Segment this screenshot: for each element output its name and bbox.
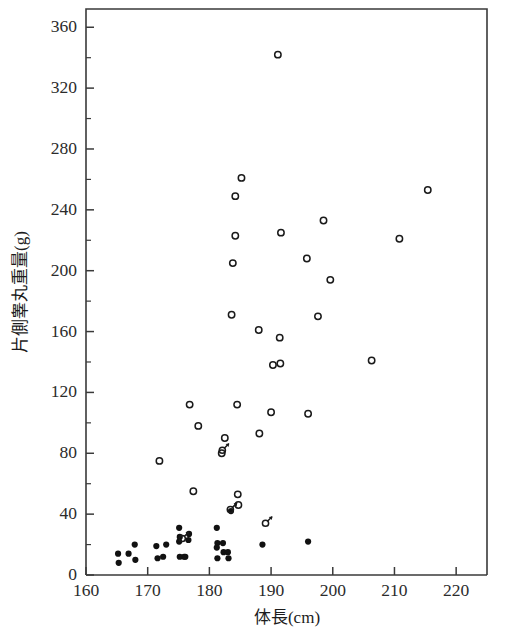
data-point-open — [304, 255, 310, 261]
axis-ticks — [86, 27, 456, 575]
data-point-open — [232, 193, 238, 199]
y-tick-label: 40 — [60, 503, 78, 523]
y-tick-label: 200 — [51, 260, 78, 280]
data-point-open — [232, 233, 238, 239]
x-tick-label: 180 — [196, 580, 223, 600]
y-tick-label: 280 — [51, 138, 78, 158]
data-point-open — [305, 411, 311, 417]
data-point-open — [270, 362, 276, 368]
data-point-open — [228, 312, 234, 318]
y-tick-label: 160 — [51, 321, 78, 341]
data-point-open — [238, 175, 244, 181]
data-point-open — [327, 277, 333, 283]
data-point-filled — [214, 555, 220, 561]
y-tick-label: 320 — [51, 77, 78, 97]
data-point-open — [320, 217, 326, 223]
data-point-open — [425, 187, 431, 193]
data-point-filled — [132, 541, 138, 547]
plot-frame — [86, 9, 487, 575]
data-point-filled — [163, 541, 169, 547]
data-point-filled — [185, 537, 191, 543]
scatter-plot-figure: 0408012016020024028032036016017018019020… — [0, 0, 508, 641]
data-point-open — [156, 458, 162, 464]
data-point-mars-icon — [262, 516, 272, 526]
data-points-layer — [115, 51, 431, 565]
data-point-filled — [214, 545, 220, 551]
data-point-open — [275, 51, 281, 57]
data-point-open — [277, 360, 283, 366]
data-point-filled — [182, 554, 188, 560]
data-point-filled — [115, 551, 121, 557]
data-point-open — [195, 423, 201, 429]
y-tick-label: 360 — [51, 16, 78, 36]
chart-axes — [86, 9, 487, 575]
data-point-filled — [220, 540, 226, 546]
series-mars-symbol — [179, 443, 272, 541]
x-tick-label: 190 — [258, 580, 285, 600]
x-axis-title: 体長(cm) — [254, 608, 320, 627]
x-tick-label: 210 — [381, 580, 408, 600]
data-point-open — [256, 327, 262, 333]
data-point-open — [268, 409, 274, 415]
data-point-open — [368, 357, 374, 363]
data-point-filled — [225, 549, 231, 555]
data-point-open — [256, 430, 262, 436]
data-point-filled — [176, 525, 182, 531]
x-tick-label: 200 — [320, 580, 347, 600]
data-point-open — [315, 313, 321, 319]
data-point-open — [222, 435, 228, 441]
x-tick-label: 220 — [443, 580, 470, 600]
data-point-open — [230, 260, 236, 266]
axis-tick-labels: 0408012016020024028032036016017018019020… — [51, 16, 470, 600]
y-tick-label: 120 — [51, 381, 78, 401]
y-axis-title: 片側睾丸重量(g) — [11, 231, 30, 353]
series-filled-dot — [115, 508, 311, 566]
data-point-filled — [214, 525, 220, 531]
data-point-filled — [160, 554, 166, 560]
data-point-filled — [153, 543, 159, 549]
data-point-open — [234, 401, 240, 407]
y-tick-label: 240 — [51, 199, 78, 219]
data-point-open — [278, 229, 284, 235]
x-tick-label: 170 — [135, 580, 162, 600]
series-open-circle — [156, 51, 431, 508]
data-point-open — [186, 401, 192, 407]
data-point-filled — [305, 538, 311, 544]
data-point-mars-icon — [219, 443, 229, 453]
data-point-filled — [116, 560, 122, 566]
data-point-open — [190, 488, 196, 494]
data-point-open — [277, 334, 283, 340]
data-point-open — [235, 491, 241, 497]
data-point-filled — [125, 551, 131, 557]
data-point-filled — [225, 555, 231, 561]
chart-canvas: 0408012016020024028032036016017018019020… — [0, 0, 508, 641]
y-tick-label: 80 — [60, 442, 78, 462]
data-point-filled — [154, 555, 160, 561]
x-tick-label: 160 — [73, 580, 100, 600]
data-point-filled — [259, 541, 265, 547]
data-point-open — [396, 236, 402, 242]
data-point-filled — [132, 557, 138, 563]
